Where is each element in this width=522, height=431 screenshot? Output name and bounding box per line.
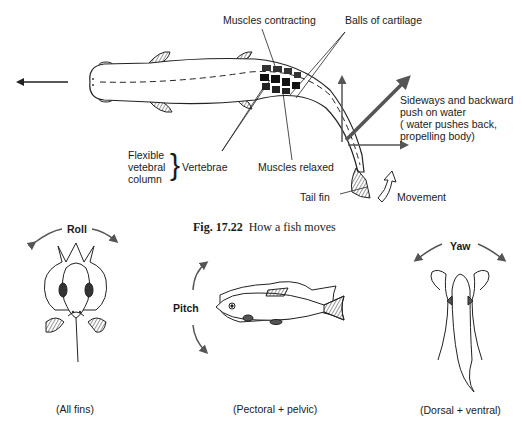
label-muscles-relaxed: Muscles relaxed [258, 161, 334, 173]
fish-top-yaw-view [431, 270, 489, 392]
label-roll: Roll [67, 223, 87, 235]
label-pitch: Pitch [173, 302, 199, 314]
label-flexible-column-2: vetebral [128, 161, 165, 173]
label-balls-of-cartilage: Balls of cartilage [345, 14, 422, 26]
label-push-3: ( water pushes back, [400, 118, 497, 130]
label-push-4: propelling body) [400, 130, 475, 142]
label-movement: Movement [397, 191, 446, 203]
label-pitch-fins: (Pectoral + pelvic) [233, 403, 317, 415]
label-yaw: Yaw [450, 240, 470, 252]
caption-text: How a fish moves [249, 220, 336, 234]
force-arrows [342, 78, 408, 145]
yaw-diagram [416, 244, 504, 392]
pitch-diagram [193, 263, 344, 352]
fish-front-view [44, 243, 106, 362]
label-push-2: push on water [400, 106, 466, 118]
movement-arrow-icon [378, 171, 396, 202]
brace-icon: } [170, 147, 180, 183]
label-flexible-column-1: Flexible [128, 149, 164, 161]
label-vertebrae: Vertebrae [182, 161, 228, 173]
fish-movement-diagram [0, 0, 522, 431]
figure-caption: Fig. 17.22 How a fish moves [193, 220, 336, 235]
fish-side-view [216, 282, 344, 325]
label-yaw-fins: (Dorsal + ventral) [420, 404, 501, 416]
label-push-1: Sideways and backward [400, 94, 513, 106]
label-muscles-contracting: Muscles contracting [223, 14, 316, 26]
label-roll-fins: (All fins) [56, 403, 94, 415]
label-flexible-column-3: column [128, 173, 162, 185]
label-tail-fin: Tail fin [300, 191, 330, 203]
caption-number: Fig. 17.22 [193, 220, 243, 234]
roll-diagram [34, 229, 116, 362]
